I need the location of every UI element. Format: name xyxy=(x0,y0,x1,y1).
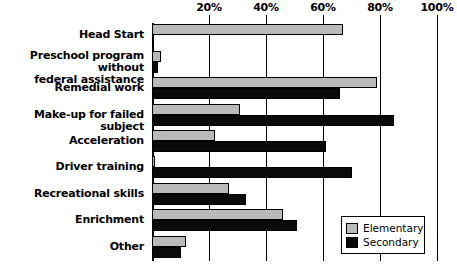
category-label-line: Acceleration xyxy=(0,135,144,147)
category-label: Driver training xyxy=(0,161,144,173)
bar-elementary xyxy=(152,156,155,167)
bar-secondary xyxy=(152,62,158,73)
category-label-line: Make-up for failed subject xyxy=(0,109,144,133)
category-label: Head Start xyxy=(0,29,144,41)
x-axis-tick-label: 100% xyxy=(420,1,453,14)
legend-label-secondary: Secondary xyxy=(363,236,419,248)
bar-row xyxy=(152,182,437,208)
bar-secondary xyxy=(152,220,297,231)
bar-row xyxy=(152,129,437,155)
x-axis-tick-labels: 20%40%60%80%100% xyxy=(0,0,457,16)
category-label: Acceleration xyxy=(0,135,144,147)
category-label-line: Remedial work xyxy=(0,82,144,94)
category-label: Remedial work xyxy=(0,82,144,94)
bar-elementary xyxy=(152,236,186,247)
bar-elementary xyxy=(152,51,161,62)
legend-item-secondary: Secondary xyxy=(346,235,419,249)
category-label: Recreational skills xyxy=(0,188,144,200)
chart-legend: Elementary Secondary xyxy=(341,216,425,254)
bar-elementary xyxy=(152,104,240,115)
bar-row xyxy=(152,102,437,128)
bar-secondary xyxy=(152,141,326,152)
bar-row xyxy=(152,49,437,75)
bar-elementary xyxy=(152,183,229,194)
category-label-line: Driver training xyxy=(0,161,144,173)
bar-secondary xyxy=(152,115,394,126)
bar-elementary xyxy=(152,130,215,141)
legend-item-elementary: Elementary xyxy=(346,221,419,235)
bar-row xyxy=(152,76,437,102)
gridline xyxy=(437,23,438,261)
bar-secondary xyxy=(152,247,181,258)
x-axis-tick-label: 60% xyxy=(310,1,336,14)
category-label: Other xyxy=(0,241,144,253)
bar-secondary xyxy=(152,88,340,99)
category-label: Enrichment xyxy=(0,214,144,226)
x-axis-tick-label: 20% xyxy=(196,1,222,14)
category-label-line: Head Start xyxy=(0,29,144,41)
bar-elementary xyxy=(152,24,343,35)
x-axis-tick-label: 40% xyxy=(253,1,279,14)
category-label-line: Preschool program without xyxy=(0,50,144,74)
bar-elementary xyxy=(152,209,283,220)
category-label: Make-up for failed subject xyxy=(0,109,144,133)
y-axis-category-labels: Head StartPreschool program withoutfeder… xyxy=(0,23,148,261)
bar-secondary xyxy=(152,194,246,205)
bar-row xyxy=(152,23,437,49)
bar-secondary xyxy=(152,35,154,46)
bar-elementary xyxy=(152,77,377,88)
bar-chart: 20%40%60%80%100% Head StartPreschool pro… xyxy=(0,0,457,271)
bar-secondary xyxy=(152,167,352,178)
x-axis-tick-label: 80% xyxy=(367,1,393,14)
category-label-line: Enrichment xyxy=(0,214,144,226)
legend-label-elementary: Elementary xyxy=(363,222,423,234)
legend-swatch-elementary-icon xyxy=(346,223,358,234)
category-label-line: Other xyxy=(0,241,144,253)
category-label-line: Recreational skills xyxy=(0,188,144,200)
legend-swatch-secondary-icon xyxy=(346,237,358,248)
bar-row xyxy=(152,155,437,181)
